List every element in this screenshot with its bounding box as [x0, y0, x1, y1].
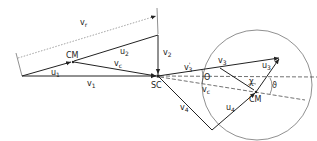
v2-label: v2 — [163, 48, 172, 58]
vc-left-label: vc — [114, 59, 122, 69]
chi-label: χ — [249, 77, 254, 86]
cm-point-left — [72, 61, 74, 63]
u2-vector — [74, 35, 158, 61]
cm-point-right — [255, 91, 257, 93]
vr-label: vr — [80, 18, 88, 28]
velocity-diagram: vr CM u1 u2 vc v1 v2 SC v'3 Θ vc v3 u3 χ… — [0, 0, 317, 141]
horizontal-dashed-axis — [160, 76, 317, 77]
v1-label: v1 — [87, 79, 96, 89]
u2-label: u2 — [120, 47, 129, 57]
u1-vector — [22, 62, 71, 76]
u4-label: u4 — [226, 103, 235, 113]
v4-label: v4 — [180, 103, 189, 113]
phi-label: ϑ — [272, 81, 277, 90]
cm-right-label: CM — [249, 95, 262, 104]
sc-label: SC — [151, 81, 162, 90]
v3-prime-label: v'3 — [184, 61, 192, 73]
u3-label: u3 — [262, 61, 271, 71]
vc-right-label: vc — [202, 85, 210, 95]
vc-dashed-axis — [160, 77, 305, 100]
u1-label: u1 — [51, 68, 60, 78]
scattering-circle — [202, 30, 312, 140]
cm-left-label: CM — [66, 51, 79, 60]
theta-label: Θ — [204, 73, 210, 82]
v3-label: v3 — [218, 56, 227, 66]
